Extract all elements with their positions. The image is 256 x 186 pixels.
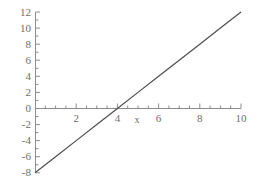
y-tick-label-6: 6 [26,54,32,66]
x-tick-label-10: 10 [236,112,248,124]
y-tick-label-0: 0 [26,102,32,114]
y-tick-label-2: 2 [26,86,32,98]
y-tick-label-minus8: -8 [22,166,32,178]
x-tick-label-2: 2 [73,112,79,124]
x-tick-label-4: 4 [115,112,121,124]
x-tick-label-8: 8 [197,112,203,124]
y-tick-label-10: 10 [20,22,32,34]
line-plot: 2 4 6 8 10 x [0,0,256,186]
x-tick-label-6: 6 [156,112,162,124]
y-tick-label-minus2: -2 [22,118,31,130]
x-axis-label: x [135,114,140,125]
chart-figure: 2 4 6 8 10 x [0,0,256,186]
y-tick-label-minus6: -6 [22,150,32,162]
y-tick-label-8: 8 [26,38,32,50]
y-tick-label-minus4: -4 [22,134,32,146]
y-tick-label-4: 4 [26,70,32,82]
y-tick-label-12: 12 [20,6,31,18]
